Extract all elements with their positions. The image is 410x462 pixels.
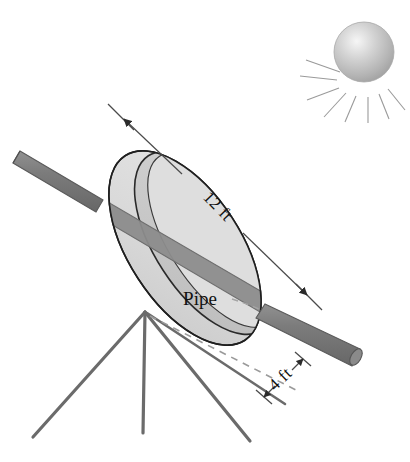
pipe-label: Pipe xyxy=(183,288,217,309)
tripod-leg-left xyxy=(33,312,145,437)
sun-icon xyxy=(300,22,405,123)
pipe-segment-upper xyxy=(13,151,103,212)
dimension-4ft: 4 ft xyxy=(256,352,311,404)
tripod-leg-center xyxy=(143,312,145,433)
pipe-segment-lower-group xyxy=(256,304,365,367)
dimension-4ft-line-b xyxy=(292,359,303,370)
dimension-12ft-tick-start xyxy=(108,104,134,130)
pipe-icon xyxy=(13,151,103,212)
figure-root: 12 ft 4 ft Pipe xyxy=(0,0,410,462)
dimension-4ft-label: 4 ft xyxy=(265,364,296,395)
pipe-segment-lower xyxy=(256,304,360,366)
satellite-dish-diagram: 12 ft 4 ft Pipe xyxy=(0,0,410,462)
